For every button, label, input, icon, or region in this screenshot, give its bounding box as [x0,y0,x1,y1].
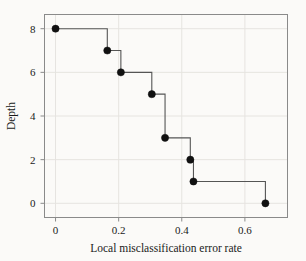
data-point-marker [190,178,197,185]
data-point-marker [161,134,168,141]
y-axis-tick-label: 6 [30,66,36,78]
x-axis-tick-label: 0.2 [112,224,126,236]
data-point-marker [117,69,124,76]
chart-figure: 00.20.40.6 02468 Local misclassification… [0,0,306,261]
x-axis-tick-label: 0.4 [175,224,189,236]
y-axis-tick-label: 4 [30,110,36,122]
data-point-marker [262,200,269,207]
data-point-marker [148,91,155,98]
figure-background [0,0,306,261]
y-axis-tick-label: 8 [30,23,36,35]
x-axis-tick-label: 0 [53,224,59,236]
data-point-marker [104,47,111,54]
x-axis-title: Local misclassification error rate [90,242,242,254]
data-point-marker [52,25,59,32]
y-axis-tick-label: 2 [30,154,36,166]
x-axis-tick-label: 0.6 [238,224,252,236]
chart-plot-area: 00.20.40.6 02468 Local misclassification… [0,0,306,261]
y-axis-tick-label: 0 [30,197,36,209]
data-point-marker [187,156,194,163]
y-axis-title: Depth [5,102,18,130]
